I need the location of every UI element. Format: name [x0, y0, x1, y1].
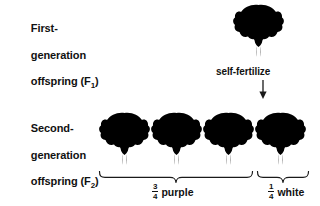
f1-label-line-3-prefix: offspring (F [31, 75, 91, 87]
figure-canvas: First- generation offspring (F1) Second-… [0, 0, 320, 206]
pea-flower-icon [151, 109, 203, 167]
fraction-denominator: 4 [152, 191, 158, 201]
pea-flower-icon [233, 1, 285, 59]
purple-label: purple [161, 186, 193, 198]
f1-label-subscript: 1 [91, 81, 95, 90]
white-label: white [277, 186, 304, 198]
f1-row-label: First- generation offspring (F1) [19, 9, 99, 102]
f2-row-label: Second- generation offspring (F2) [19, 109, 99, 202]
white-ratio-caption: 1 4 white [268, 183, 304, 201]
f2-label-line-3-prefix: offspring (F [31, 175, 91, 187]
fraction-numerator: 3 [152, 183, 158, 192]
pea-flower-icon [255, 109, 307, 167]
f2-label-line-2: generation [31, 149, 86, 161]
fraction-one-quarter: 1 4 [268, 183, 274, 201]
fraction-denominator: 4 [268, 191, 274, 201]
self-fertilize-label: self-fertilize [216, 66, 270, 77]
pea-flower-icon [203, 109, 255, 167]
purple-ratio-caption: 3 4 purple [152, 183, 194, 201]
f2-label-subscript: 2 [91, 181, 95, 190]
fraction-numerator: 1 [268, 183, 274, 192]
arrow-down-icon [258, 80, 268, 104]
fraction-three-quarters: 3 4 [152, 183, 158, 201]
f1-label-line-1: First- [31, 22, 58, 34]
pea-flower-icon [99, 109, 151, 167]
f1-label-line-3-suffix: ) [95, 75, 99, 87]
f2-label-line-1: Second- [31, 122, 74, 134]
f1-label-line-2: generation [31, 49, 86, 61]
